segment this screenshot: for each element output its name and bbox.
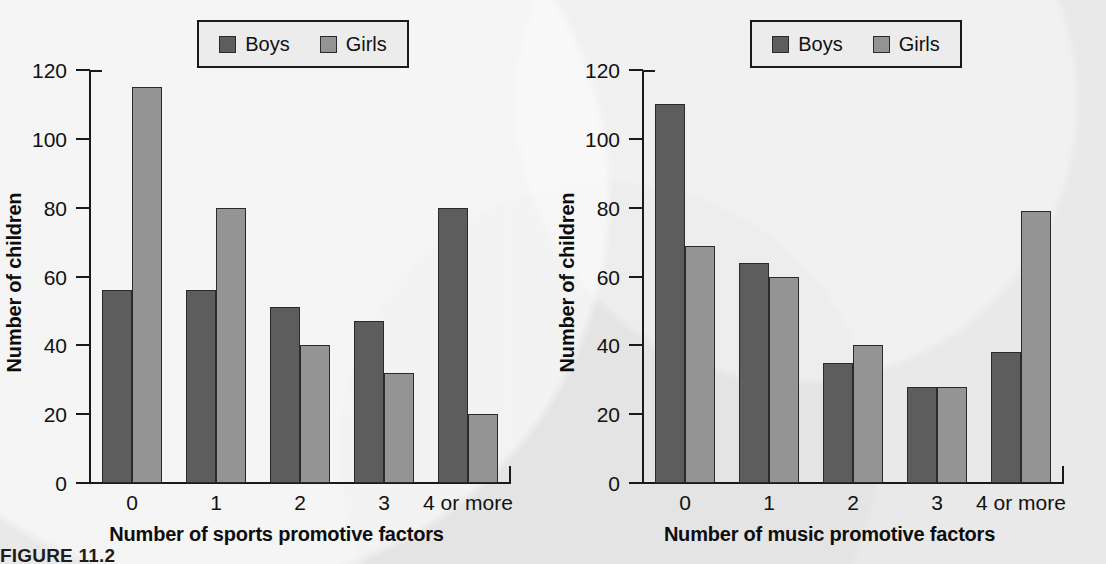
y-axis-tick-label: 20 [44,404,67,425]
bar-boys-3 [354,321,384,483]
y-axis-title: Number of children [551,0,585,564]
y-axis-title-text: Number of children [4,192,27,372]
legend-music: Boys Girls [750,20,962,68]
legend-item-girls: Girls [320,34,387,54]
y-axis-tick-label: 60 [597,266,620,287]
bar-boys-1 [739,263,769,483]
y-axis-tick-label: 120 [585,60,620,81]
y-axis-tick-label: 0 [55,473,67,494]
legend-item-boys: Boys [772,34,842,54]
legend-sports: Boys Girls [197,20,409,68]
legend-item-boys: Boys [219,34,289,54]
plot-area-sports [90,70,510,483]
y-axis-tick-label: 40 [44,335,67,356]
x-axis-category-label: 1 [210,492,222,513]
y-axis-tick: 80 [629,207,643,209]
legend-label-girls: Girls [899,34,940,54]
figure-page: Boys Girls Number of children 0204060801… [0,0,1106,564]
bar-boys-2 [823,363,853,483]
y-axis-tick: 0 [629,482,643,484]
y-axis-title: Number of children [0,0,32,564]
x-axis-category-label: 2 [847,492,859,513]
bar-boys-4 [438,208,468,483]
bar-boys-0 [102,290,132,483]
legend-item-girls: Girls [873,34,940,54]
x-axis-category-label: 3 [378,492,390,513]
x-axis-category-label: 4 or more [976,492,1066,513]
y-axis-tick: 80 [76,207,90,209]
legend-swatch-girls-icon [873,36,890,53]
y-axis-tick: 40 [76,344,90,346]
x-axis-category-label: 1 [763,492,775,513]
legend-swatch-boys-icon [219,36,236,53]
y-axis-tick: 20 [629,413,643,415]
legend-label-boys: Boys [798,34,842,54]
legend-label-girls: Girls [346,34,387,54]
bar-girls-3 [937,387,967,483]
x-axis-category-label: 0 [679,492,691,513]
bar-boys-2 [270,307,300,483]
y-axis-tick-label: 20 [597,404,620,425]
bar-boys-0 [655,104,685,483]
chart-panel-sports: Boys Girls Number of children 0204060801… [0,0,553,564]
y-axis-tick: 0 [76,482,90,484]
bar-girls-1 [769,277,799,484]
legend-label-boys: Boys [245,34,289,54]
bar-girls-3 [384,373,414,483]
x-axis-category-label: 3 [931,492,943,513]
y-axis-tick: 100 [629,138,643,140]
y-axis-tick-label: 40 [597,335,620,356]
y-axis-tick: 60 [629,276,643,278]
x-axis-category-label: 4 or more [423,492,513,513]
y-axis-tick-label: 80 [597,197,620,218]
y-axis-tick-label: 120 [32,60,67,81]
bar-girls-2 [853,345,883,483]
x-axis-title: Number of music promotive factors [553,523,1106,546]
bar-girls-4 [468,414,498,483]
bar-girls-2 [300,345,330,483]
y-axis-tick: 40 [629,344,643,346]
x-axis-category-label: 0 [126,492,138,513]
y-axis-tick: 120 [629,69,643,71]
chart-panel-music: Boys Girls Number of children 0204060801… [553,0,1106,564]
legend-swatch-boys-icon [772,36,789,53]
y-axis-tick-label: 100 [585,128,620,149]
legend-swatch-girls-icon [320,36,337,53]
x-axis-category-label: 2 [294,492,306,513]
y-axis-tick: 120 [76,69,90,71]
y-axis-tick-label: 100 [32,128,67,149]
bar-girls-1 [216,208,246,483]
x-axis-title: Number of sports promotive factors [0,523,553,546]
bar-boys-3 [907,387,937,483]
y-axis-tick: 100 [76,138,90,140]
figure-caption: FIGURE 11.2 [0,545,115,564]
bar-girls-0 [685,246,715,483]
y-axis-tick-label: 80 [44,197,67,218]
bar-girls-0 [132,87,162,483]
y-axis-title-text: Number of children [557,192,580,372]
bar-boys-1 [186,290,216,483]
y-axis-tick: 60 [76,276,90,278]
y-axis-tick-label: 0 [608,473,620,494]
y-axis-tick: 20 [76,413,90,415]
bar-boys-4 [991,352,1021,483]
y-axis-tick-label: 60 [44,266,67,287]
plot-area-music [643,70,1063,483]
bar-girls-4 [1021,211,1051,483]
